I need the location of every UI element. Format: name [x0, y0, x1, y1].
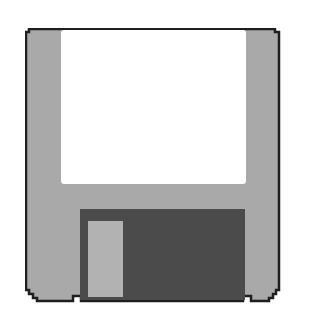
shutter-slot — [88, 221, 123, 297]
floppy-disk-icon — [25, 28, 281, 306]
disk-label — [61, 30, 246, 184]
floppy-disk-graphic — [25, 28, 281, 306]
